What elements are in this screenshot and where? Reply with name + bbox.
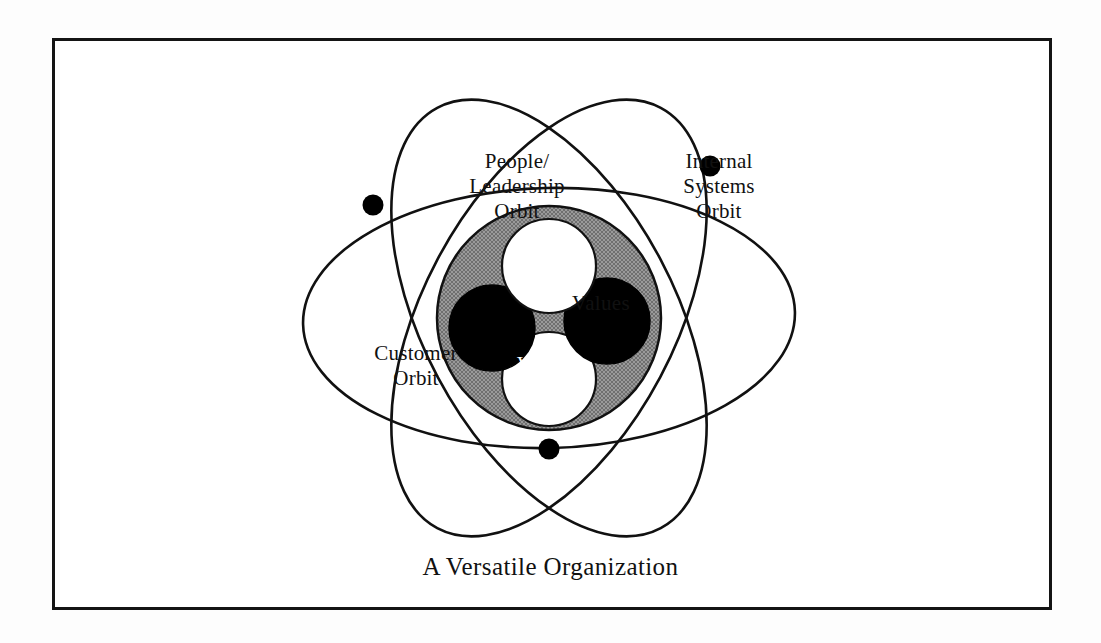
diagram-frame: People/ Leadership Orbit Internal System… xyxy=(52,38,1052,610)
orbit-label-internal-systems: Internal Systems Orbit xyxy=(649,149,789,223)
page-canvas: People/ Leadership Orbit Internal System… xyxy=(0,0,1101,643)
orbit-label-people-leadership: People/ Leadership Orbit xyxy=(447,149,587,223)
figure-caption: A Versatile Organization xyxy=(0,553,1101,581)
orbit-label-customer: Customer Orbit xyxy=(351,341,481,391)
electron-people-leadership xyxy=(363,195,384,216)
nucleus-label-values: Values xyxy=(545,291,657,316)
nucleus-label-vision: Vision xyxy=(493,352,597,377)
electron-customer xyxy=(539,439,560,460)
nucleus-group xyxy=(437,206,661,430)
atom-diagram-svg xyxy=(55,41,1055,613)
